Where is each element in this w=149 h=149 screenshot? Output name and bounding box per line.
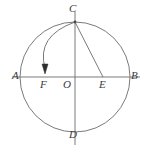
geometry-figure: A B C D E F O	[0, 0, 149, 149]
label-point-b: B	[131, 70, 138, 81]
label-point-c: C	[69, 3, 76, 14]
label-point-e: E	[99, 79, 106, 90]
label-point-f: F	[40, 79, 47, 90]
label-point-d: D	[69, 129, 77, 140]
arrowhead-at-f	[42, 64, 48, 74]
point-marker-c	[74, 21, 77, 24]
label-point-o: O	[63, 79, 71, 90]
chord-c-to-e	[75, 22, 103, 77]
label-point-a: A	[12, 70, 19, 81]
geometry-canvas	[0, 0, 149, 149]
